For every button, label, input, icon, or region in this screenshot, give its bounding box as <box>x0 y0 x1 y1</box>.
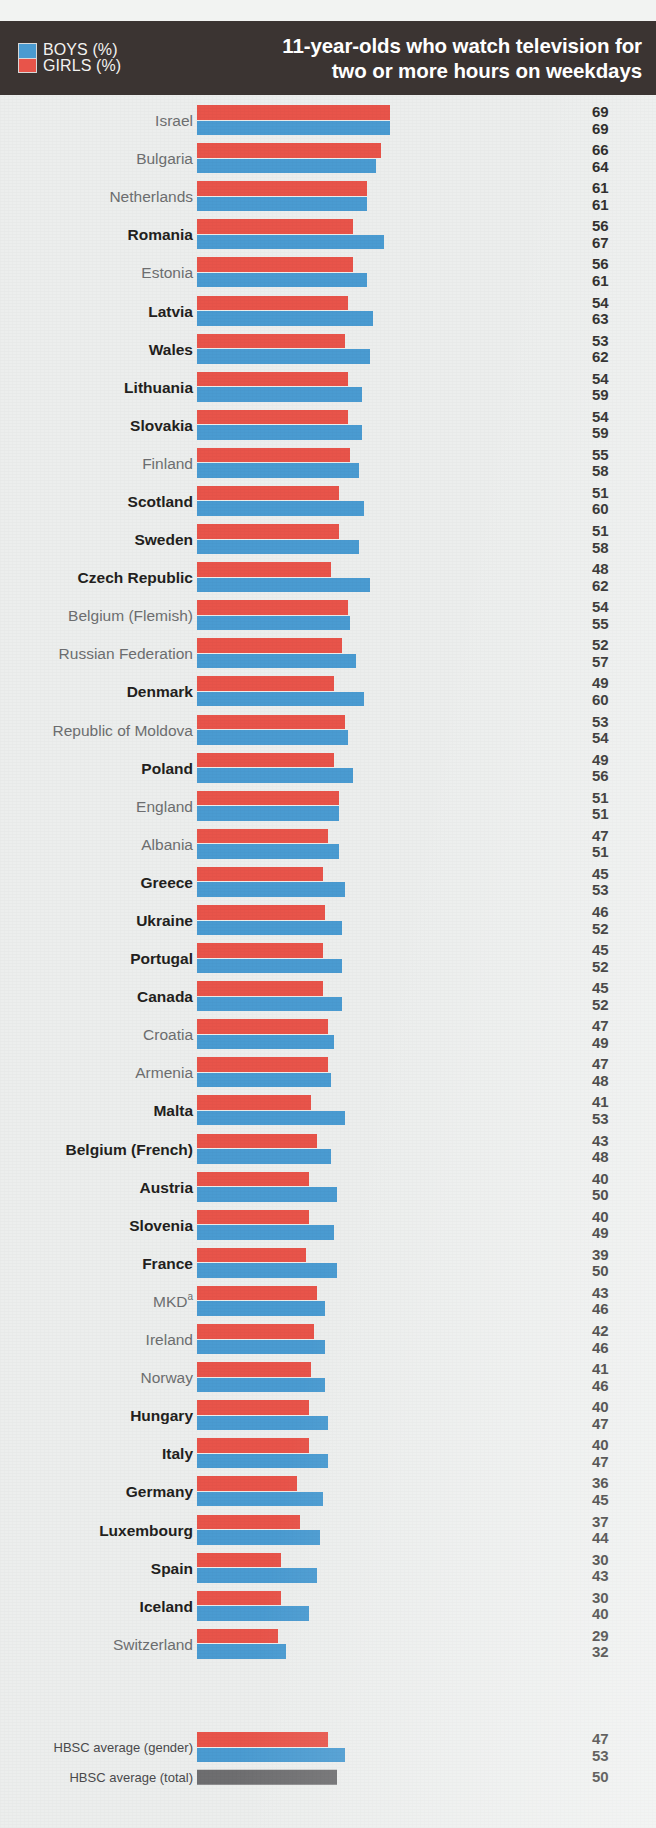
row-values: 4047 <box>592 1437 636 1470</box>
bar-girls <box>197 1057 328 1072</box>
table-row: Armenia4748 <box>0 1053 656 1091</box>
value-boys: 67 <box>592 234 636 251</box>
value-boys: 59 <box>592 425 636 442</box>
value-girls: 54 <box>592 294 636 311</box>
bar-girls <box>197 1400 309 1415</box>
value-girls: 46 <box>592 904 636 921</box>
bar-boys <box>197 1035 334 1050</box>
value-girls: 40 <box>592 1437 636 1454</box>
value-girls: 56 <box>592 256 636 273</box>
bar-girls <box>197 562 331 577</box>
row-values: 4153 <box>592 1094 636 1127</box>
value-boys: 62 <box>592 577 636 594</box>
bar-girls <box>197 219 353 234</box>
value-boys: 69 <box>592 120 636 137</box>
row-country-label: Romania <box>128 226 193 243</box>
row-values: 4960 <box>592 675 636 708</box>
row-country-label: Hungary <box>130 1407 193 1424</box>
bar-boys <box>197 997 342 1012</box>
row-bars <box>197 142 597 174</box>
table-row: Republic of Moldova5354 <box>0 711 656 749</box>
row-values: 4047 <box>592 1399 636 1432</box>
value-boys: 63 <box>592 311 636 328</box>
value-boys: 50 <box>592 1263 636 1280</box>
value-girls: 51 <box>592 789 636 806</box>
row-bars <box>197 1361 597 1393</box>
value-boys: 46 <box>592 1339 636 1356</box>
bar-girls <box>197 943 323 958</box>
value-girls: 49 <box>592 751 636 768</box>
bar-boys <box>197 311 373 326</box>
row-values: 5661 <box>592 256 636 289</box>
row-values: 4552 <box>592 980 636 1013</box>
row-bars <box>197 1094 597 1126</box>
table-row: Croatia4749 <box>0 1015 656 1053</box>
value-girls: 48 <box>592 561 636 578</box>
bar-boys <box>197 1073 331 1088</box>
value-boys: 47 <box>592 1415 636 1432</box>
table-row: Norway4146 <box>0 1358 656 1396</box>
bar-boys <box>197 235 384 250</box>
row-values: 4862 <box>592 561 636 594</box>
table-row: Iceland3040 <box>0 1587 656 1625</box>
row-values: 6969 <box>592 104 636 137</box>
bar-boys <box>197 1187 337 1202</box>
row-bars <box>197 1323 597 1355</box>
row-bars <box>197 1133 597 1165</box>
value-boys: 49 <box>592 1225 636 1242</box>
row-bars <box>197 409 597 441</box>
value-girls: 42 <box>592 1323 636 1340</box>
row-country-label: Iceland <box>140 1597 193 1614</box>
table-row: Germany3645 <box>0 1472 656 1510</box>
row-values: 4049 <box>592 1208 636 1241</box>
table-row: Albania4751 <box>0 825 656 863</box>
table-row: Portugal4552 <box>0 939 656 977</box>
bar-boys <box>197 349 370 364</box>
bar-girls <box>197 257 353 272</box>
bar-girls <box>197 1476 297 1491</box>
row-values: 5151 <box>592 789 636 822</box>
row-values: 2932 <box>592 1627 636 1660</box>
bar-boys <box>197 806 339 821</box>
bar-girls <box>197 981 323 996</box>
value-girls: 53 <box>592 713 636 730</box>
legend-label-girls: GIRLS (%) <box>43 58 121 74</box>
page-title-line-1: 11-year-olds who watch television for <box>178 33 642 58</box>
table-row: Lithuania5459 <box>0 368 656 406</box>
row-bars <box>197 1399 597 1431</box>
value-girls: 69 <box>592 104 636 121</box>
table-row: Austria4050 <box>0 1168 656 1206</box>
row-country-label: Lithuania <box>124 378 193 395</box>
table-row: Poland4956 <box>0 749 656 787</box>
row-bars <box>197 256 597 288</box>
bar-girls <box>197 524 339 539</box>
row-values: 6161 <box>592 180 636 213</box>
table-row: Netherlands6161 <box>0 177 656 215</box>
row-country-label: Czech Republic <box>78 569 193 586</box>
row-country-label: Greece <box>140 873 193 890</box>
average-total-values: 50 <box>592 1769 609 1786</box>
row-values: 4748 <box>592 1056 636 1089</box>
average-gender-values: 4753 <box>592 1731 609 1764</box>
row-bars <box>197 1247 597 1279</box>
bar-boys <box>197 501 364 516</box>
value-boys: 60 <box>592 691 636 708</box>
bar-girls <box>197 410 348 425</box>
legend: BOYS (%) GIRLS (%) <box>0 42 178 74</box>
bar-girls <box>197 715 345 730</box>
bar-boys <box>197 1149 331 1164</box>
table-row: Israel6969 <box>0 101 656 139</box>
chart-rows: Israel6969Bulgaria6664Netherlands6161Rom… <box>0 101 656 1663</box>
row-country-label: Austria <box>140 1178 193 1195</box>
table-row: Italy4047 <box>0 1434 656 1472</box>
value-boys: 62 <box>592 349 636 366</box>
value-girls: 47 <box>592 1018 636 1035</box>
value-boys: 61 <box>592 272 636 289</box>
table-row: Russian Federation5257 <box>0 634 656 672</box>
row-country-label: Republic of Moldova <box>53 721 193 738</box>
average-value-total: 50 <box>592 1769 609 1786</box>
bar-girls <box>197 1210 309 1225</box>
row-country-label: Germany <box>126 1483 193 1500</box>
bar-girls <box>197 1438 309 1453</box>
average-total-label: HBSC average (total) <box>69 1770 193 1785</box>
